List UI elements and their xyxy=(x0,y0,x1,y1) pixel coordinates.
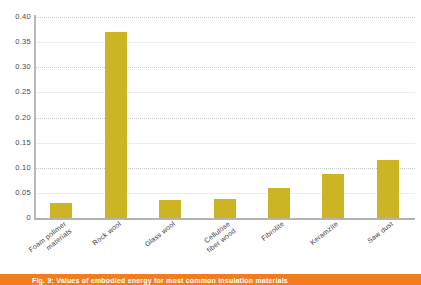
y-axis-tick-label: 0.30 xyxy=(1,63,31,71)
bar xyxy=(214,199,236,218)
y-axis-tick-labels: 0.400.350.300.250.200.150.100.050 xyxy=(0,0,31,285)
y-axis-tick-label: 0.35 xyxy=(1,38,31,46)
bar xyxy=(322,174,344,218)
bars-layer xyxy=(34,17,415,218)
y-axis-tick-label: 0 xyxy=(1,214,31,222)
x-axis-category-labels: Foam polimermaterialsRock woolGlass wool… xyxy=(34,220,415,270)
figure-embodied-energy-bar-chart: 0.400.350.300.250.200.150.100.050 Foam p… xyxy=(0,0,421,285)
y-axis-tick-label: 0.05 xyxy=(1,189,31,197)
y-axis-tick-label: 0.25 xyxy=(1,88,31,96)
bar xyxy=(159,200,181,218)
y-axis-tick-label: 0.20 xyxy=(1,114,31,122)
bar xyxy=(268,188,290,218)
figure-caption: Fig. 9: Values of embodied energy for mo… xyxy=(32,277,288,284)
bar xyxy=(50,203,72,218)
bar xyxy=(105,32,127,218)
x-axis-category-label: Fibrolite xyxy=(232,220,286,265)
x-axis-category-label: Keramzite xyxy=(286,220,340,265)
x-axis-category-label: Rock wool xyxy=(69,220,123,265)
bar xyxy=(377,160,399,218)
x-axis-category-label: Saw dust xyxy=(341,220,395,265)
y-axis-tick-label: 0.10 xyxy=(1,164,31,172)
x-axis-category-label: Cellulosefiber wood xyxy=(178,220,237,272)
caption-bar: Fig. 9: Values of embodied energy for mo… xyxy=(0,274,421,285)
y-axis-tick-label: 0.40 xyxy=(1,13,31,21)
y-axis-tick-label: 0.15 xyxy=(1,139,31,147)
x-axis-category-label: Glass wool xyxy=(123,220,177,265)
